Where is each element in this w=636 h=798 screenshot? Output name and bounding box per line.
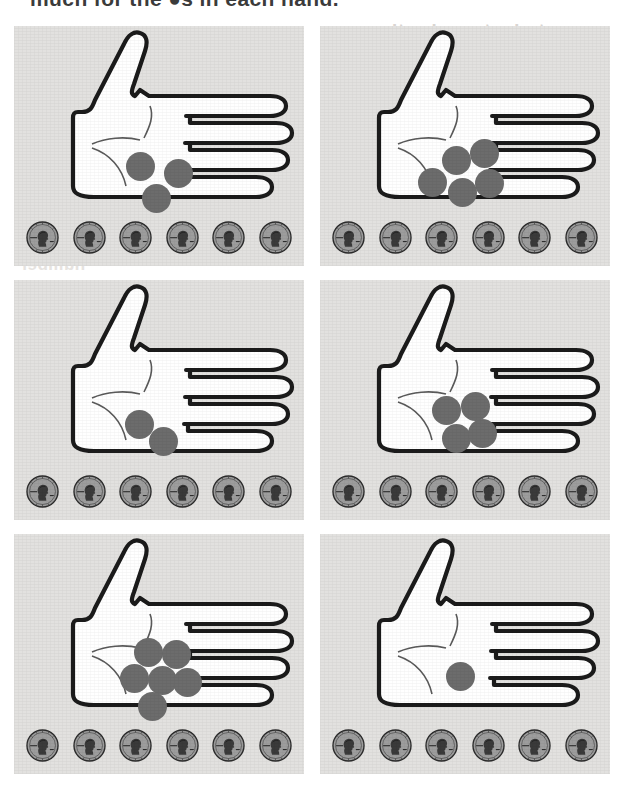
hand-outline (18, 534, 300, 726)
penny-coin-icon (425, 221, 458, 254)
hand-outline-icon (18, 26, 300, 218)
penny-coin-icon (259, 475, 292, 508)
penny-row (26, 221, 292, 254)
penny-coin[interactable] (379, 221, 412, 254)
penny-coin-icon (379, 729, 412, 762)
penny-coin[interactable] (119, 475, 152, 508)
penny-coin[interactable] (166, 475, 199, 508)
penny-coin-icon (565, 221, 598, 254)
penny-coin[interactable] (212, 729, 245, 762)
penny-coin[interactable] (73, 221, 106, 254)
penny-coin-icon (472, 221, 505, 254)
hand-panel-3[interactable] (14, 280, 304, 520)
hand-outline-icon (324, 534, 606, 726)
penny-coin[interactable] (379, 729, 412, 762)
instruction-text: much for the ●s in each hand. (30, 0, 610, 13)
penny-coin[interactable] (425, 221, 458, 254)
hand-outline-icon (324, 26, 606, 218)
worksheet-page: much for the ●s in each hand. students r… (0, 0, 636, 798)
penny-coin[interactable] (518, 475, 551, 508)
hand-outline-icon (18, 534, 300, 726)
penny-coin[interactable] (119, 729, 152, 762)
penny-coin-icon (332, 729, 365, 762)
penny-coin-icon (518, 729, 551, 762)
penny-coin[interactable] (332, 729, 365, 762)
penny-coin-icon (212, 729, 245, 762)
penny-coin[interactable] (259, 729, 292, 762)
penny-coin[interactable] (472, 729, 505, 762)
hand-panel-1[interactable] (14, 26, 304, 266)
hand-outline (324, 534, 606, 726)
penny-coin-icon (119, 729, 152, 762)
penny-coin[interactable] (119, 221, 152, 254)
hand-outline (324, 280, 606, 472)
penny-coin[interactable] (565, 729, 598, 762)
penny-coin[interactable] (26, 221, 59, 254)
penny-coin-icon (472, 729, 505, 762)
penny-coin-icon (379, 475, 412, 508)
penny-coin[interactable] (518, 221, 551, 254)
hand-outline (324, 26, 606, 218)
penny-coin-icon (518, 221, 551, 254)
penny-coin-icon (379, 221, 412, 254)
penny-coin-icon (259, 221, 292, 254)
penny-coin[interactable] (425, 729, 458, 762)
penny-coin-icon (73, 475, 106, 508)
hand-panel-6[interactable] (320, 534, 610, 774)
penny-row (26, 729, 292, 762)
hand-outline (18, 280, 300, 472)
penny-row (332, 729, 598, 762)
penny-coin[interactable] (259, 221, 292, 254)
penny-coin[interactable] (73, 729, 106, 762)
penny-coin[interactable] (212, 475, 245, 508)
penny-coin[interactable] (472, 221, 505, 254)
penny-coin[interactable] (166, 729, 199, 762)
penny-coin[interactable] (259, 475, 292, 508)
penny-coin-icon (166, 221, 199, 254)
penny-coin-icon (565, 729, 598, 762)
penny-row (332, 221, 598, 254)
penny-coin[interactable] (518, 729, 551, 762)
penny-coin[interactable] (26, 475, 59, 508)
hand-panel-5[interactable] (14, 534, 304, 774)
penny-coin[interactable] (565, 475, 598, 508)
penny-coin-icon (119, 475, 152, 508)
penny-coin-icon (332, 475, 365, 508)
penny-coin-icon (332, 221, 365, 254)
penny-coin-icon (425, 729, 458, 762)
penny-coin-icon (259, 729, 292, 762)
penny-coin-icon (166, 729, 199, 762)
hand-outline-icon (18, 280, 300, 472)
penny-coin[interactable] (26, 729, 59, 762)
hand-outline-icon (324, 280, 606, 472)
penny-row (26, 475, 292, 508)
penny-coin[interactable] (332, 475, 365, 508)
penny-coin-icon (212, 221, 245, 254)
hand-outline (18, 26, 300, 218)
penny-coin[interactable] (565, 221, 598, 254)
penny-coin-icon (26, 221, 59, 254)
penny-coin[interactable] (472, 475, 505, 508)
penny-row (332, 475, 598, 508)
penny-coin-icon (425, 475, 458, 508)
penny-coin-icon (472, 475, 505, 508)
penny-coin-icon (26, 729, 59, 762)
penny-coin[interactable] (212, 221, 245, 254)
penny-coin[interactable] (332, 221, 365, 254)
penny-coin[interactable] (379, 475, 412, 508)
hand-panel-4[interactable] (320, 280, 610, 520)
penny-coin-icon (119, 221, 152, 254)
penny-coin[interactable] (425, 475, 458, 508)
penny-coin-icon (73, 221, 106, 254)
penny-coin-icon (166, 475, 199, 508)
penny-coin-icon (26, 475, 59, 508)
penny-coin-icon (565, 475, 598, 508)
penny-coin[interactable] (166, 221, 199, 254)
hand-panel-grid (14, 26, 610, 771)
hand-panel-2[interactable] (320, 26, 610, 266)
penny-coin[interactable] (73, 475, 106, 508)
penny-coin-icon (518, 475, 551, 508)
penny-coin-icon (73, 729, 106, 762)
penny-coin-icon (212, 475, 245, 508)
